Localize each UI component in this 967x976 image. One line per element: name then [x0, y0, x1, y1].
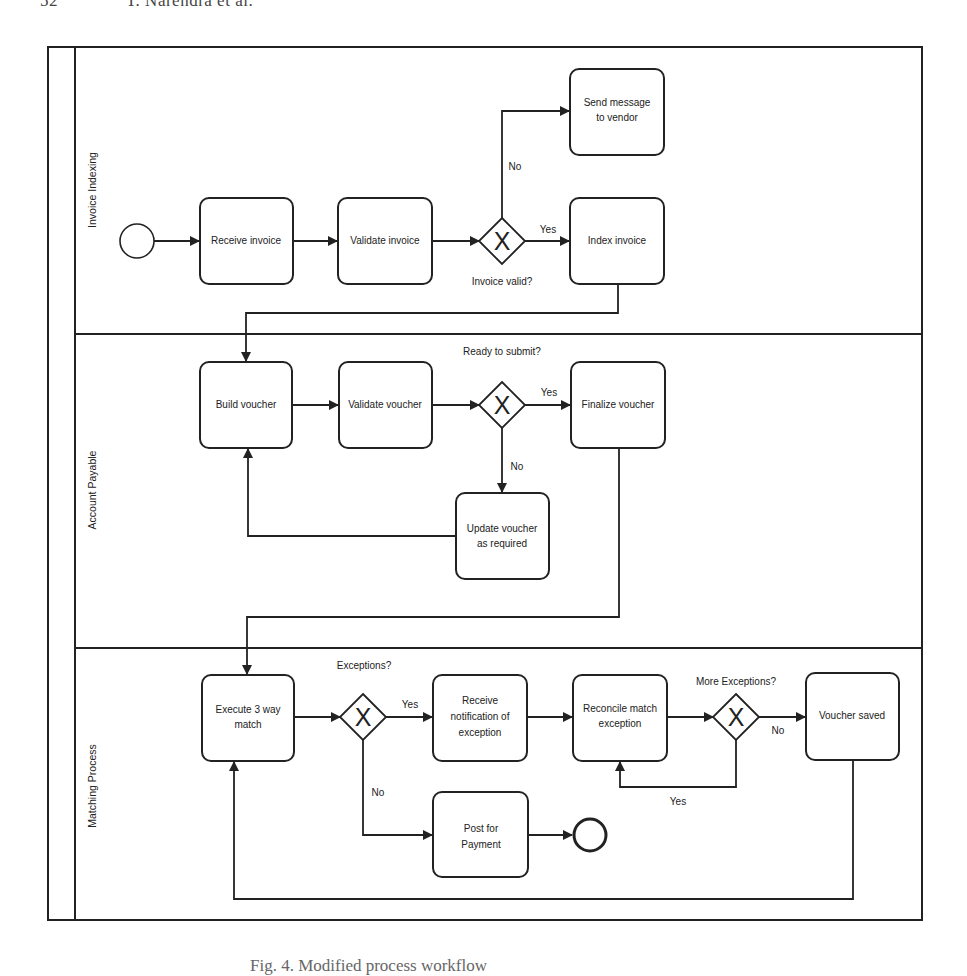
flow-label-yes: Yes — [670, 796, 686, 807]
task-label: to vendor — [596, 112, 638, 123]
task-label: exception — [599, 718, 642, 729]
flow-arrow-loop — [234, 760, 853, 899]
task-label: Receive — [462, 695, 499, 706]
gateway-question: More Exceptions? — [696, 676, 776, 687]
task-label: Index invoice — [588, 235, 647, 246]
gateway-question: Exceptions? — [337, 660, 392, 671]
gateway-question: Ready to submit? — [463, 346, 541, 357]
figure-caption: Fig. 4. Modified process workflow — [250, 956, 487, 976]
start-event-icon — [120, 224, 154, 258]
task-label: Post for — [464, 823, 499, 834]
task-label: exception — [459, 727, 502, 738]
task-post-for-payment — [433, 792, 528, 877]
task-update-voucher — [456, 493, 549, 579]
flow-label-yes: Yes — [402, 699, 418, 710]
exclusive-gateway-x-icon: X — [494, 391, 511, 419]
task-label: Validate voucher — [348, 399, 422, 410]
task-label: Build voucher — [216, 399, 277, 410]
flow-label-yes: Yes — [541, 387, 557, 398]
flow-label-no: No — [772, 725, 785, 736]
flow-label-no: No — [372, 787, 385, 798]
task-label: as required — [477, 538, 527, 549]
exclusive-gateway-x-icon: X — [355, 703, 372, 731]
task-label: Reconcile match — [583, 703, 657, 714]
flow-arrow — [247, 448, 619, 674]
task-label: match — [234, 719, 261, 730]
task-label: Payment — [461, 839, 501, 850]
lane-label-invoice-indexing: Invoice Indexing — [86, 152, 98, 228]
gateway-question: Invoice valid? — [472, 276, 533, 287]
task-label: Execute 3 way — [215, 704, 280, 715]
task-label: Validate invoice — [350, 235, 420, 246]
task-label: notification of — [451, 711, 510, 722]
task-label: Finalize voucher — [582, 399, 655, 410]
flow-label-no: No — [511, 461, 524, 472]
flow-arrow-loop — [248, 449, 456, 536]
flow-arrow — [246, 284, 618, 361]
lane-label-account-payable: Account Payable — [86, 450, 98, 529]
flow-label-yes: Yes — [540, 224, 556, 235]
task-label: Update voucher — [467, 523, 538, 534]
exclusive-gateway-x-icon: X — [494, 227, 511, 255]
exclusive-gateway-x-icon: X — [728, 703, 745, 731]
task-label: Voucher saved — [819, 710, 885, 721]
end-event-icon — [574, 819, 606, 851]
task-execute-3-way-match — [202, 675, 294, 761]
pool-frame — [48, 47, 922, 920]
task-label: Send message — [584, 97, 651, 108]
lane-label-matching-process: Matching Process — [86, 744, 98, 827]
task-label: Receive invoice — [211, 235, 281, 246]
flow-label-no: No — [509, 161, 522, 172]
